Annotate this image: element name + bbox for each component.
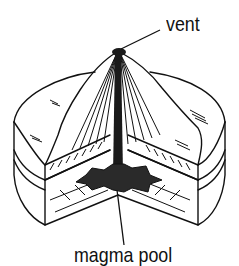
vent-opening xyxy=(112,48,126,56)
magma-pool-leader-line xyxy=(117,190,124,245)
cylinder-left-wall xyxy=(14,122,45,225)
cone-right-slope xyxy=(120,52,202,165)
magma-pool-label: magma pool xyxy=(74,243,172,266)
volcano-cross-section-illustration xyxy=(0,0,239,266)
volcano-diagram: vent magma pool xyxy=(0,0,239,266)
magma-pool xyxy=(76,164,162,192)
vent-leader-line xyxy=(121,30,160,49)
vent-label: vent xyxy=(166,12,200,36)
cylinder-right-wall xyxy=(198,122,225,225)
